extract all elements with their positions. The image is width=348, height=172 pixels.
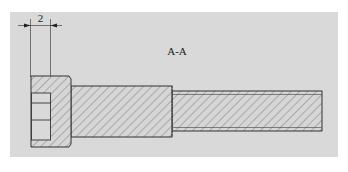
section-label: A-A: [167, 45, 187, 57]
bolt-head: [31, 76, 71, 147]
bolt-neck: [71, 86, 172, 137]
arrow-left-icon: [51, 24, 58, 28]
bolt-shaft: [172, 91, 322, 131]
section-drawing: 2 A-A: [0, 0, 348, 172]
arrow-right-icon: [24, 24, 31, 28]
dimension-label: 2: [38, 12, 44, 24]
socket-cavity: [32, 93, 51, 140]
